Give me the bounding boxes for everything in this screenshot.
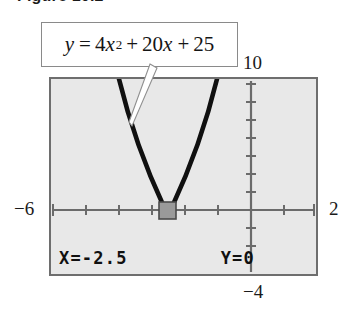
figure-caption: Figure 10.2 <box>17 0 104 5</box>
callout-leader-line <box>110 60 190 132</box>
equation-coef-a: 4 <box>95 32 106 57</box>
y-axis <box>246 81 256 272</box>
equation-plus-1: + <box>122 32 142 57</box>
equation-lhs: y <box>65 32 75 57</box>
trace-y-value: Y=0 <box>221 248 255 268</box>
trace-x-value: X=-2.5 <box>59 248 128 268</box>
equation-coef-b: 20 <box>142 32 163 57</box>
equation-plus-2: + <box>173 32 193 57</box>
equation-equals: = <box>75 32 95 57</box>
ymin-label: −4 <box>243 281 263 303</box>
xmin-label: −6 <box>14 198 34 220</box>
x-axis <box>53 204 314 216</box>
equation-var-x-2: x <box>163 32 173 57</box>
trace-readout: X=-2.5 Y=0 <box>59 245 255 271</box>
equation-var-x: x <box>105 32 115 57</box>
trace-cursor <box>159 202 176 219</box>
ymax-label: 10 <box>243 52 262 74</box>
xmax-label: 2 <box>329 198 339 220</box>
equation-constant: 25 <box>193 32 214 57</box>
figure-container: Figure 10.2 y = 4x2 + 20x + 25 <box>0 0 352 311</box>
